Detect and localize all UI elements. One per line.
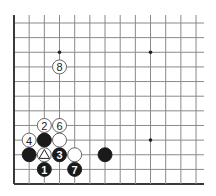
move-number-label: 4: [26, 135, 32, 147]
move-number-label: 2: [41, 120, 47, 132]
white-stone: [53, 133, 67, 147]
star-point-icon: [58, 50, 62, 54]
star-point-icon: [149, 138, 153, 142]
white-stone-6: 6: [53, 118, 67, 132]
white-stone-4: 4: [22, 133, 36, 147]
white-stone: [37, 148, 51, 162]
move-number-label: 8: [56, 61, 62, 73]
white-stone-8: 8: [53, 60, 67, 74]
go-board: 1234678: [0, 0, 216, 196]
move-number-label: 3: [56, 149, 62, 161]
stones-layer: 1234678: [22, 60, 112, 176]
move-number-label: 6: [56, 120, 62, 132]
black-stone: [37, 133, 51, 147]
black-stone: [22, 148, 36, 162]
black-stone-7: 7: [68, 162, 82, 176]
black-stone: [98, 148, 112, 162]
move-number-label: 1: [41, 164, 47, 176]
move-number-label: 7: [72, 164, 78, 176]
white-stone-2: 2: [37, 118, 51, 132]
black-stone-1: 1: [37, 162, 51, 176]
star-point-icon: [149, 50, 153, 54]
white-stone: [68, 148, 82, 162]
black-stone-3: 3: [53, 148, 67, 162]
